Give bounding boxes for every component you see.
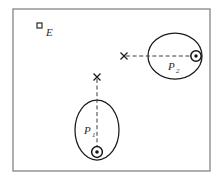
orbit-p2-label: P — [167, 60, 175, 72]
figure-container: E P 2 — [0, 0, 222, 186]
orbit-p1-body-icon — [92, 147, 103, 158]
orbital-diagram-svg: E P 2 — [0, 0, 222, 186]
orbit-p1-label: P — [83, 124, 91, 136]
orbit-p2-body-icon — [191, 51, 201, 61]
observer-label: E — [45, 26, 53, 38]
orbit-p2-label-subscript: 2 — [176, 67, 180, 75]
observer-square-icon — [37, 23, 42, 28]
orbit-p1-label-subscript: 1 — [92, 131, 96, 139]
